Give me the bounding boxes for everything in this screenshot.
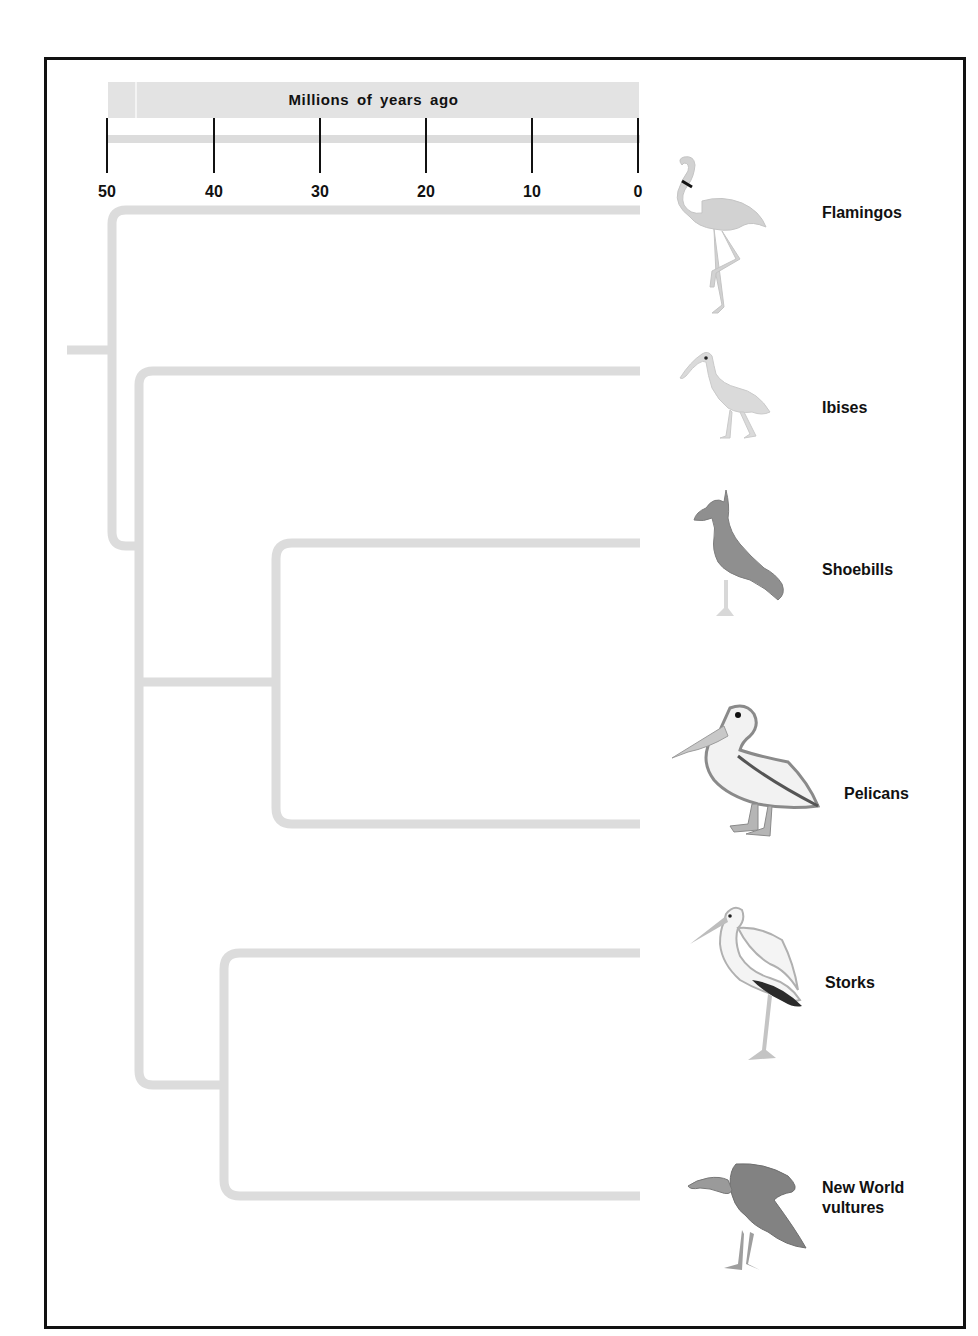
phylogenetic-tree <box>0 0 978 1336</box>
flamingo-icon <box>662 155 772 320</box>
n3-node-branch <box>224 953 640 1196</box>
n2-node-branch <box>276 543 640 824</box>
vulture-icon <box>684 1160 824 1280</box>
ibis-icon <box>678 348 778 443</box>
taxon-label-new-world-vultures: New World vultures <box>822 1178 904 1218</box>
taxon-label-line: vultures <box>822 1198 904 1218</box>
taxon-label-line: New World <box>822 1178 904 1198</box>
taxon-label-shoebills: Shoebills <box>822 560 893 580</box>
n1-node-branch <box>139 371 640 1085</box>
root-node-branch <box>112 210 640 546</box>
taxon-label-storks: Storks <box>825 973 875 993</box>
pelican-icon <box>668 700 828 840</box>
shoebill-icon <box>690 488 790 623</box>
taxon-label-ibises: Ibises <box>822 398 867 418</box>
taxon-label-flamingos: Flamingos <box>822 203 902 223</box>
stork-icon <box>690 900 820 1065</box>
taxon-label-pelicans: Pelicans <box>844 784 909 804</box>
